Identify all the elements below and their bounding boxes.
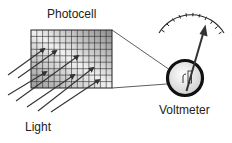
photocell-grid-icon <box>31 30 112 88</box>
wire-lines <box>112 30 170 88</box>
voltmeter-dial-icon <box>168 61 203 96</box>
voltmeter-label: Voltmeter <box>159 103 210 117</box>
light-label: Light <box>25 120 51 134</box>
photocell-label: Photocell <box>47 7 96 21</box>
gauge-scale-icon <box>159 13 224 34</box>
